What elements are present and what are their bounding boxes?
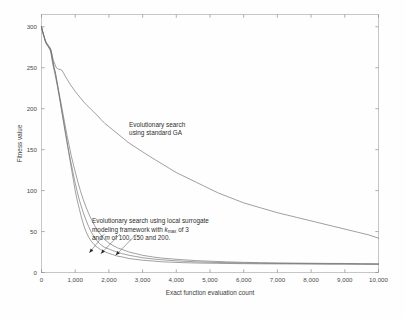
y-tick-label: 50: [30, 228, 37, 235]
y-tick-label: 200: [27, 105, 38, 112]
figure-container: 01,0002,0003,0004,0005,0006,0007,0008,00…: [0, 0, 406, 319]
ga-annotation-line: using standard GA: [129, 129, 183, 137]
annot-text-run: modeling framework with: [92, 226, 164, 234]
x-tick-label: 8,000: [303, 276, 319, 283]
y-tick-label: 0: [34, 269, 38, 276]
y-tick-label: 100: [27, 187, 38, 194]
y-axis-title: Fitness value: [16, 124, 23, 162]
x-tick-label: 1,000: [67, 276, 83, 283]
y-tick-label: 250: [27, 64, 38, 71]
arrow-to-m100-head: [89, 249, 93, 253]
ga-annotation-line: Evolutionary search: [129, 121, 186, 129]
annot-text-run: of 3: [176, 226, 189, 233]
surrogate-annotation-line1: Evolutionary search using local surrogat…: [92, 217, 209, 225]
x-axis-title: Exact function evaluation count: [166, 289, 255, 296]
x-tick-label: 6,000: [236, 276, 252, 283]
series-line-0: [42, 27, 379, 238]
annot-text-run: and: [92, 234, 104, 241]
surrogate-annotation-line2: modeling framework with kmax of 3: [92, 226, 189, 235]
x-tick-label: 4,000: [169, 276, 185, 283]
x-tick-label: 0: [40, 276, 44, 283]
y-tick-label: 300: [27, 23, 38, 30]
x-tick-label: 3,000: [135, 276, 151, 283]
x-tick-label: 2,000: [101, 276, 117, 283]
x-tick-label: 10,000: [369, 276, 388, 283]
x-tick-label: 5,000: [202, 276, 218, 283]
chart-canvas: 01,0002,0003,0004,0005,0006,0007,0008,00…: [0, 0, 406, 319]
x-tick-label: 7,000: [270, 276, 286, 283]
x-tick-label: 9,000: [337, 276, 353, 283]
y-tick-label: 150: [27, 146, 38, 153]
